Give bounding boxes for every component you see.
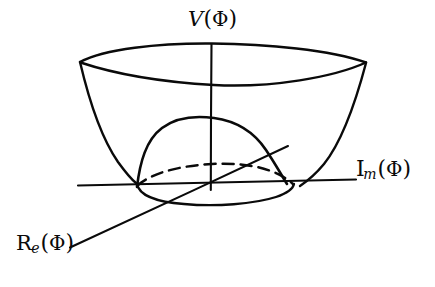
v-axis-label-close-paren: ) — [228, 6, 237, 31]
phi-symbol-icon: Φ — [49, 231, 65, 255]
re-axis-label-main: R — [16, 231, 32, 255]
im-axis-label-open-paren: ( — [377, 156, 386, 181]
bowl-rim — [80, 43, 366, 85]
bowl-left-wall — [80, 62, 136, 183]
re-axis-label-sub: e — [31, 240, 39, 256]
bowl-rim-back-arc — [80, 43, 366, 62]
v-axis-label-main: V — [188, 7, 203, 31]
mexican-hat-potential-figure: V(Φ) Im(Φ) Re(Φ) — [0, 0, 435, 287]
re-axis — [70, 146, 288, 248]
bowl-rim-front-arc — [81, 63, 367, 86]
re-axis-label-close-paren: ) — [65, 230, 74, 255]
phi-symbol-icon: Φ — [386, 157, 402, 181]
v-axis-label-open-paren: ( — [203, 6, 212, 31]
phi-symbol-icon: Φ — [212, 7, 228, 31]
im-axis-label-sub: m — [363, 166, 376, 182]
re-axis-label: Re(Φ) — [16, 230, 74, 255]
re-axis-label-open-paren: ( — [40, 230, 49, 255]
v-axis — [211, 44, 212, 190]
v-axis-label: V(Φ) — [188, 6, 237, 31]
im-axis-label: Im(Φ) — [356, 156, 411, 181]
im-axis-label-close-paren: ) — [402, 156, 411, 181]
trough-front-arc — [137, 184, 294, 205]
